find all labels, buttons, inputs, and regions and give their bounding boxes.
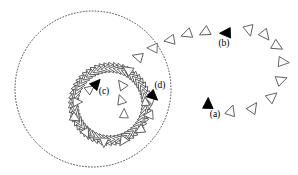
label-b: (b): [218, 38, 229, 49]
label-d: (d): [154, 80, 165, 91]
spiral-trajectory-figure: (a)(b)(c)(d): [0, 0, 298, 175]
label-c: (c): [99, 86, 110, 97]
label-a: (a): [210, 109, 221, 120]
figure-background: [0, 0, 298, 175]
figure-container: (a)(b)(c)(d): [0, 0, 298, 175]
